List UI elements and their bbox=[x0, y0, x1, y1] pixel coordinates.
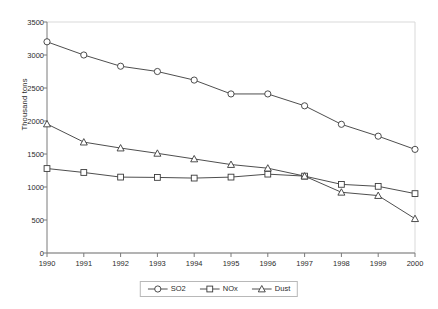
square-marker-icon bbox=[200, 284, 220, 294]
series-dust bbox=[47, 124, 415, 219]
data-point-marker bbox=[228, 174, 234, 180]
series-markers-nox bbox=[44, 166, 418, 197]
triangle-marker-icon bbox=[252, 284, 272, 294]
data-point-marker bbox=[412, 146, 418, 152]
series-line bbox=[47, 124, 415, 219]
plot-area bbox=[0, 0, 438, 309]
plot-frame bbox=[47, 22, 415, 253]
legend-label: SO2 bbox=[171, 285, 186, 293]
series-nox bbox=[47, 169, 415, 194]
legend-label: NOx bbox=[223, 285, 238, 293]
data-point-marker bbox=[338, 189, 345, 195]
series-markers-so2 bbox=[44, 39, 418, 153]
data-point-marker bbox=[191, 77, 197, 83]
data-point-marker bbox=[155, 175, 161, 181]
data-point-marker bbox=[375, 133, 381, 139]
line-chart: Thousand tons 05001000150020002500300035… bbox=[0, 0, 438, 309]
circle-glyph bbox=[155, 286, 161, 292]
data-point-marker bbox=[154, 68, 160, 74]
data-point-marker bbox=[265, 171, 271, 177]
data-point-marker bbox=[265, 91, 271, 97]
chart-legend: SO2NOxDust bbox=[140, 281, 298, 297]
data-point-marker bbox=[375, 183, 381, 189]
series-markers-dust bbox=[44, 120, 419, 221]
data-point-marker bbox=[191, 175, 197, 181]
legend-label: Dust bbox=[275, 285, 290, 293]
square-glyph bbox=[207, 286, 213, 292]
circle-marker-icon bbox=[148, 284, 168, 294]
data-point-marker bbox=[81, 52, 87, 58]
data-point-marker bbox=[302, 103, 308, 109]
data-point-marker bbox=[118, 63, 124, 69]
legend-entry-nox[interactable]: NOx bbox=[200, 284, 238, 294]
data-point-marker bbox=[81, 170, 87, 176]
data-point-marker bbox=[338, 121, 344, 127]
data-point-marker bbox=[80, 139, 87, 145]
data-point-marker bbox=[118, 174, 124, 180]
series-line bbox=[47, 169, 415, 194]
data-point-marker bbox=[44, 39, 50, 45]
data-point-marker bbox=[412, 215, 419, 221]
data-point-marker bbox=[339, 181, 345, 187]
legend-entry-dust[interactable]: Dust bbox=[252, 284, 290, 294]
data-point-marker bbox=[228, 91, 234, 97]
legend-entry-so2[interactable]: SO2 bbox=[148, 284, 186, 294]
data-point-marker bbox=[44, 166, 50, 172]
data-point-marker bbox=[412, 191, 418, 197]
